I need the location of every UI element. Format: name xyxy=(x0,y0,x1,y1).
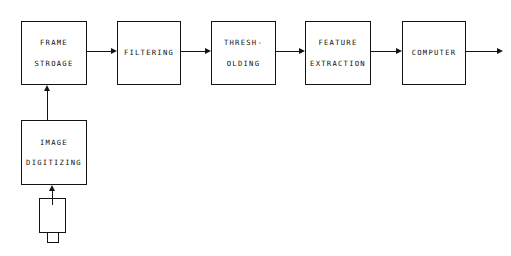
connector-thresholding-to-feature-extraction xyxy=(276,51,299,52)
node-image-digitizing-line2: DIGITIZING xyxy=(26,159,82,166)
arrowhead-computer-output xyxy=(497,48,503,54)
connector-filtering-to-thresholding xyxy=(181,51,205,52)
node-frame-storage-line1: FRAME xyxy=(40,39,68,46)
camera-lens-icon xyxy=(47,233,59,243)
arrowhead-filtering-to-thresholding xyxy=(205,48,211,54)
arrowhead-frame-storage-to-filtering xyxy=(111,48,117,54)
node-filtering-line1: FILTERING xyxy=(124,49,174,56)
node-feature-extraction[interactable]: FEATURE EXTRACTION xyxy=(305,21,371,85)
node-feature-extraction-line2: EXTRACTION xyxy=(310,60,366,67)
arrowhead-image-digitizing-to-frame-storage xyxy=(44,85,50,91)
connector-image-digitizing-to-frame-storage xyxy=(47,91,48,120)
node-filtering[interactable]: FILTERING xyxy=(117,21,181,85)
block-diagram: FRAME STROAGE FILTERING THRESH- OLDING F… xyxy=(0,0,511,256)
node-thresholding-line1: THRESH- xyxy=(224,39,263,46)
connector-feature-extraction-to-computer xyxy=(371,51,396,52)
connector-frame-storage-to-filtering xyxy=(87,51,112,52)
arrowhead-camera-to-image-digitizing xyxy=(49,185,55,191)
node-thresholding[interactable]: THRESH- OLDING xyxy=(211,21,276,85)
node-frame-storage[interactable]: FRAME STROAGE xyxy=(21,21,87,85)
arrowhead-thresholding-to-feature-extraction xyxy=(299,48,305,54)
node-feature-extraction-line1: FEATURE xyxy=(318,39,357,46)
connector-camera-to-image-digitizing xyxy=(52,191,53,205)
node-computer-line1: COMPUTER xyxy=(412,49,457,56)
node-frame-storage-line2: STROAGE xyxy=(34,60,73,67)
node-computer[interactable]: COMPUTER xyxy=(402,21,466,85)
connector-computer-output xyxy=(466,51,499,52)
arrowhead-feature-extraction-to-computer xyxy=(396,48,402,54)
node-image-digitizing-line1: IMAGE xyxy=(40,139,68,146)
node-thresholding-line2: OLDING xyxy=(227,60,260,67)
node-image-digitizing[interactable]: IMAGE DIGITIZING xyxy=(21,120,87,185)
